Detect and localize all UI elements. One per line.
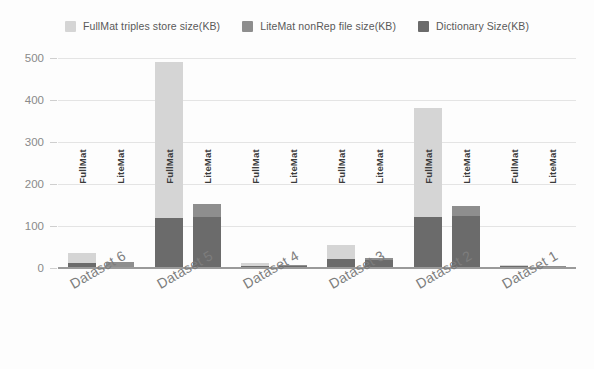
bar-segment-dictionary [155, 218, 183, 268]
bar-segment-dictionary [414, 217, 442, 268]
y-tick-label: 500 [25, 52, 44, 64]
y-tick-label: 200 [25, 178, 44, 190]
bar-segment-triples-store [68, 253, 96, 263]
legend-label: LiteMat nonRep file size(KB) [260, 20, 396, 32]
y-tick-label: 0 [38, 262, 44, 274]
y-tick-label: 100 [25, 220, 44, 232]
square-swatch-icon [242, 21, 253, 32]
square-swatch-icon [65, 21, 76, 32]
bar-chart: FullMat triples store size(KB) LiteMat n… [0, 0, 594, 369]
legend-item-dictionary-size[interactable]: Dictionary Size(KB) [418, 20, 529, 32]
bar-inline-label-litemat: LiteMat [115, 149, 126, 184]
legend-item-litemat-nonrep[interactable]: LiteMat nonRep file size(KB) [242, 20, 396, 32]
y-axis: 5004003002001000 [0, 58, 52, 268]
y-tick-label: 400 [25, 94, 44, 106]
y-tick-mark [50, 184, 57, 185]
bar-inline-label-litemat: LiteMat [374, 149, 385, 184]
y-tick-mark [50, 58, 57, 59]
bar-inline-label-litemat: LiteMat [287, 149, 298, 184]
bar-inline-label-fullmat: FullMat [77, 149, 88, 184]
y-tick-mark [50, 100, 57, 101]
legend-item-fullmat-triples[interactable]: FullMat triples store size(KB) [65, 20, 220, 32]
bar-inline-label-fullmat: FullMat [508, 149, 519, 184]
legend-label: FullMat triples store size(KB) [83, 20, 220, 32]
y-tick-mark [50, 226, 57, 227]
bar-segment-triples-store [327, 245, 355, 259]
bar-segment-triples-store [155, 62, 183, 217]
bar-segment-nonrep-file [193, 204, 221, 217]
x-axis-line [58, 267, 576, 269]
bar-inline-label-litemat: LiteMat [546, 149, 557, 184]
plot-area: FullMatLiteMatFullMatLiteMatFullMatLiteM… [58, 58, 576, 268]
bar-segment-nonrep-file [452, 206, 480, 217]
x-axis: Dataset 6Dataset 5Dataset 4Dataset 3Data… [58, 272, 576, 367]
y-tick-label: 300 [25, 136, 44, 148]
bar-inline-label-fullmat: FullMat [249, 149, 260, 184]
bar-inline-label-litemat: LiteMat [460, 149, 471, 184]
bar-inline-label-fullmat: FullMat [336, 149, 347, 184]
bar-inline-label-fullmat: FullMat [422, 149, 433, 184]
y-tick-mark [50, 268, 57, 269]
bar-inline-label-litemat: LiteMat [201, 149, 212, 184]
legend-label: Dictionary Size(KB) [436, 20, 529, 32]
bar-inline-label-fullmat: FullMat [163, 149, 174, 184]
y-tick-mark [50, 142, 57, 143]
square-swatch-icon [418, 21, 429, 32]
bar-series-container: FullMatLiteMatFullMatLiteMatFullMatLiteM… [58, 58, 576, 268]
chart-legend: FullMat triples store size(KB) LiteMat n… [0, 20, 594, 32]
bar-fullmat[interactable] [414, 108, 442, 268]
